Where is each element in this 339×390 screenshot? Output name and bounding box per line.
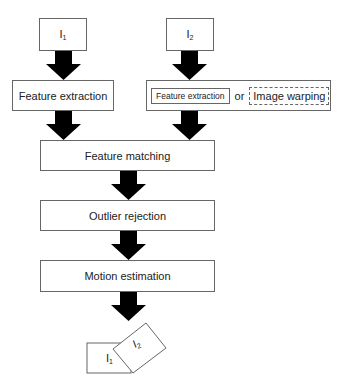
arrow-down-icon (111, 291, 146, 321)
feature-extraction-option: Feature extraction (151, 88, 230, 104)
motion-estimation-box: Motion estimation (40, 260, 215, 292)
arrow-down-icon (111, 230, 146, 260)
arrow-down-icon (46, 50, 81, 80)
output-image-1-label: I1 (106, 352, 113, 365)
aligned-images-figure (87, 323, 166, 373)
feature-extraction-label: Feature extraction (19, 90, 108, 102)
outlier-rejection-box: Outlier rejection (40, 200, 215, 231)
arrow-down-icon (111, 170, 146, 200)
arrow-down-icon (172, 50, 207, 80)
input-image-2-box: I2 (166, 18, 214, 51)
input-image-1-box: I1 (39, 18, 87, 51)
or-connector: or (235, 90, 245, 102)
feature-matching-label: Feature matching (85, 150, 171, 162)
input-image-2-label: I2 (187, 28, 194, 41)
outlier-rejection-label: Outlier rejection (89, 210, 166, 222)
motion-estimation-label: Motion estimation (84, 270, 170, 282)
arrow-down-icon (46, 110, 81, 140)
arrow-down-icon (172, 110, 207, 140)
feature-extraction-box: Feature extraction (12, 80, 114, 111)
image-warping-option: Image warping (249, 87, 329, 105)
feature-matching-box: Feature matching (40, 140, 215, 171)
right-branch-container: Feature extraction or Image warping (146, 80, 331, 111)
input-image-1-label: I1 (60, 28, 67, 41)
flow-arrows (0, 0, 339, 390)
